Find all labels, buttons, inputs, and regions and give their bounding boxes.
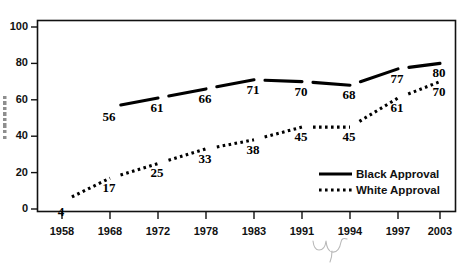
legend-item-white-approval[interactable]: White Approval <box>319 184 440 196</box>
series-line-white-approval <box>72 82 440 197</box>
data-point-label: 61 <box>391 100 404 115</box>
x-tick-label: 1994 <box>338 225 363 237</box>
legend-label-black-approval: Black Approval <box>356 168 439 180</box>
data-point-label: 68 <box>343 87 357 102</box>
y-tick-label: 20 <box>16 166 28 178</box>
data-point-label: 70 <box>433 84 446 99</box>
x-tick-label: 1991 <box>290 225 314 237</box>
data-point-label: 66 <box>199 91 213 106</box>
data-point-label: 70 <box>295 84 308 99</box>
chart-container: 100 80 60 40 20 0 <box>0 0 469 263</box>
x-tick-label: 1983 <box>242 225 266 237</box>
y-axis-ticks <box>31 27 38 209</box>
y-tick-label: 40 <box>16 129 28 141</box>
line-chart: 100 80 60 40 20 0 <box>0 0 469 263</box>
data-point-label: 4 <box>58 204 65 219</box>
data-point-label: 71 <box>247 82 260 97</box>
x-tick-label: 1997 <box>386 225 410 237</box>
handwriting-artifact <box>313 238 347 262</box>
data-point-label: 25 <box>151 165 165 180</box>
y-axis-label-artifact <box>3 96 7 139</box>
x-tick-label: 1958 <box>50 225 74 237</box>
x-axis-tick-labels: 1958 1968 1972 1978 1983 1991 1994 1997 … <box>50 225 452 237</box>
data-point-label: 38 <box>247 142 261 157</box>
y-axis-tick-labels: 100 80 60 40 20 0 <box>10 20 28 214</box>
x-tick-label: 1968 <box>98 225 122 237</box>
data-point-label: 45 <box>343 129 357 144</box>
data-point-label: 33 <box>199 151 213 166</box>
y-tick-label: 100 <box>10 20 28 32</box>
series-labels-white-approval: 41725333845456170 <box>58 84 446 219</box>
data-point-label: 61 <box>151 100 164 115</box>
series-labels-black-approval: 5661667170687780 <box>103 65 446 124</box>
data-point-label: 56 <box>103 109 117 124</box>
chart-legend: Black Approval White Approval <box>319 168 440 196</box>
y-tick-label: 60 <box>16 93 28 105</box>
data-point-label: 45 <box>295 129 309 144</box>
y-tick-label: 80 <box>16 56 28 68</box>
legend-label-white-approval: White Approval <box>356 184 440 196</box>
x-axis-ticks <box>62 212 440 220</box>
data-point-label: 77 <box>391 71 405 86</box>
y-tick-label: 0 <box>22 202 28 214</box>
x-tick-label: 1978 <box>194 225 218 237</box>
x-tick-label: 2003 <box>428 225 452 237</box>
legend-item-black-approval[interactable]: Black Approval <box>319 168 439 180</box>
data-point-label: 17 <box>103 180 117 195</box>
data-point-label: 80 <box>433 65 446 80</box>
x-tick-label: 1972 <box>146 225 170 237</box>
